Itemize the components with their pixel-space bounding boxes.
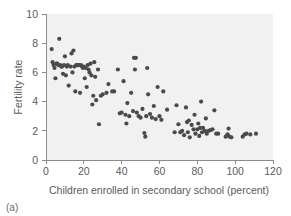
data-point (174, 103, 178, 107)
data-point (93, 75, 97, 79)
x-tick-label: 20 (78, 165, 90, 177)
x-tick-label: 60 (154, 165, 166, 177)
data-point (184, 105, 188, 109)
data-point (133, 67, 137, 71)
data-point (83, 76, 87, 80)
data-point (134, 56, 138, 60)
y-tick-label: 2 (32, 125, 38, 137)
data-point (120, 110, 124, 114)
data-point (116, 67, 120, 71)
data-point (68, 64, 72, 68)
data-point (176, 122, 180, 126)
x-tick-label: 40 (116, 165, 128, 177)
data-point (156, 85, 160, 89)
data-point (112, 89, 116, 93)
data-point (92, 60, 96, 64)
data-point (142, 131, 146, 135)
data-point (186, 130, 190, 134)
data-point (85, 85, 89, 89)
data-point (121, 79, 125, 83)
figure-caption: (a) (6, 202, 18, 213)
data-point (63, 54, 67, 58)
data-point (104, 91, 108, 95)
data-point (192, 113, 196, 117)
y-tick-label: 0 (32, 154, 38, 166)
data-point (70, 70, 74, 74)
data-point (248, 132, 252, 136)
data-point (196, 121, 200, 125)
data-point (254, 132, 258, 136)
y-axis-title: Fertility rate (12, 59, 24, 114)
data-point (182, 133, 186, 137)
data-point (138, 116, 142, 120)
data-point (145, 66, 149, 70)
x-tick-label: 0 (43, 165, 49, 177)
y-tick-label: 4 (32, 95, 38, 107)
data-point (210, 127, 214, 131)
y-tick-label: 6 (32, 66, 38, 78)
data-point (150, 116, 154, 120)
data-point (71, 48, 75, 52)
data-point (144, 114, 148, 118)
data-point (212, 108, 216, 112)
data-point (204, 116, 208, 120)
data-point (94, 98, 98, 102)
data-point (190, 123, 194, 127)
data-point (135, 110, 139, 114)
scatter-plot: 0246810 020406080100120 Fertility rate C… (0, 0, 291, 216)
data-point (140, 107, 144, 111)
y-tick-label: 8 (32, 37, 38, 49)
data-point (187, 118, 191, 122)
data-point (143, 135, 147, 139)
data-point (197, 134, 201, 138)
data-point (67, 83, 71, 87)
data-point (161, 89, 165, 93)
data-point (165, 108, 169, 112)
data-point (146, 92, 150, 96)
x-axis-title: Children enrolled in secondary school (p… (49, 184, 269, 196)
data-point (57, 37, 61, 41)
data-point (216, 132, 220, 136)
data-point (148, 112, 152, 116)
data-point (88, 62, 92, 66)
data-point (64, 73, 68, 77)
data-point (180, 129, 184, 133)
data-point (106, 82, 110, 86)
data-point (50, 47, 54, 51)
data-point (244, 132, 248, 136)
data-point (90, 102, 94, 106)
data-point (191, 127, 195, 131)
x-tick-label: 100 (226, 165, 244, 177)
data-point (157, 114, 161, 118)
data-point (96, 67, 100, 71)
data-point (97, 122, 101, 126)
data-point (101, 92, 105, 96)
data-point (53, 76, 57, 80)
data-point (91, 94, 95, 98)
data-point (124, 121, 128, 125)
data-point (188, 135, 192, 139)
data-point (89, 73, 93, 77)
data-point (154, 117, 158, 121)
data-point (193, 132, 197, 136)
data-point (73, 89, 77, 93)
data-point (152, 104, 156, 108)
x-tick-label: 120 (264, 165, 282, 177)
data-point (129, 91, 133, 95)
data-point (125, 101, 129, 105)
y-tick-label: 10 (26, 8, 38, 20)
data-point (52, 66, 56, 70)
data-point (229, 135, 233, 139)
x-tick-label: 80 (191, 165, 203, 177)
data-point (199, 100, 203, 104)
data-point (123, 113, 127, 117)
data-point (159, 118, 163, 122)
data-point (127, 114, 131, 118)
figure-container: 0246810 020406080100120 Fertility rate C… (0, 0, 291, 216)
data-point (226, 127, 230, 131)
data-point (173, 130, 177, 134)
x-axis-tick-labels: 020406080100120 (43, 165, 282, 177)
data-point (78, 91, 82, 95)
y-axis-tick-labels: 0246810 (26, 8, 38, 166)
data-point (131, 109, 135, 113)
